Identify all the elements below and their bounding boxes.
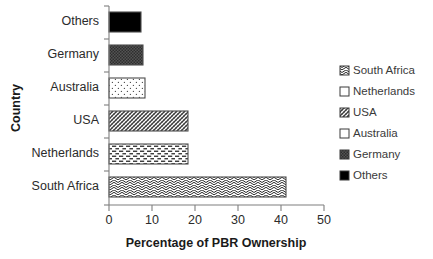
- category-label-netherlands: Netherlands: [32, 146, 99, 160]
- x-tick-label-40: 40: [274, 213, 288, 227]
- bar-chart: Country Others Germany Australia USA Net…: [0, 0, 433, 259]
- legend-swatch-usa: [340, 108, 349, 117]
- legend-label-usa: USA: [353, 106, 377, 118]
- bar-usa: [109, 111, 188, 131]
- legend-swatch-others: [340, 171, 349, 180]
- x-tick-label-0: 0: [106, 213, 113, 227]
- chart-canvas: Country Others Germany Australia USA Net…: [0, 0, 433, 259]
- x-axis-tick-labels: 0 10 20 30 40 50: [106, 213, 331, 227]
- x-tick-label-30: 30: [231, 213, 245, 227]
- y-axis-ticks: [104, 6, 109, 205]
- bar-others: [109, 12, 141, 32]
- category-label-australia: Australia: [50, 80, 99, 94]
- legend-label-others: Others: [353, 169, 388, 181]
- legend-label-australia: Australia: [353, 127, 398, 139]
- bar-germany: [109, 45, 143, 65]
- y-axis-title-text: Country: [9, 84, 23, 132]
- x-tick-label-10: 10: [145, 213, 159, 227]
- x-tick-label-20: 20: [188, 213, 202, 227]
- legend-label-south-africa: South Africa: [353, 64, 416, 76]
- y-axis-category-labels: Others Germany Australia USA Netherlands…: [32, 14, 100, 193]
- bars-group: [109, 12, 286, 197]
- category-label-south-africa: South Africa: [32, 179, 99, 193]
- axis-lines: [109, 6, 324, 205]
- x-tick-label-50: 50: [317, 213, 331, 227]
- category-label-germany: Germany: [48, 47, 100, 61]
- bar-australia: [109, 78, 145, 98]
- y-axis-title: Country: [9, 84, 23, 132]
- legend-label-germany: Germany: [353, 148, 401, 160]
- bar-netherlands: [109, 144, 188, 164]
- legend-swatch-germany: [340, 150, 349, 159]
- category-label-usa: USA: [73, 113, 99, 127]
- x-axis-ticks: [109, 205, 324, 211]
- category-label-others: Others: [61, 14, 99, 28]
- legend-swatch-netherlands: [340, 87, 349, 96]
- legend-swatch-south-africa: [340, 66, 349, 75]
- legend-swatch-australia: [340, 129, 349, 138]
- legend-label-netherlands: Netherlands: [353, 85, 415, 97]
- bar-south-africa: [109, 177, 286, 197]
- legend: South Africa Netherlands USA Australia G…: [340, 64, 416, 181]
- x-axis-title-text: Percentage of PBR Ownership: [126, 236, 307, 250]
